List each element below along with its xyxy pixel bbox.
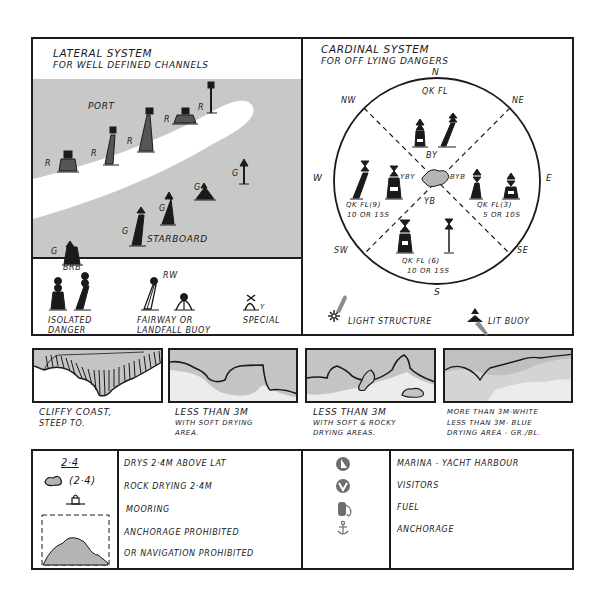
starboard-label: STARBOARD — [147, 234, 208, 244]
symbol-row-mooring: MOORING — [126, 505, 170, 514]
symbol-row-anchorage-prohibited: ANCHORAGE PROHIBITED — [124, 528, 239, 537]
starboard-marker-label: G — [51, 247, 58, 256]
port-marker-label: R — [164, 115, 170, 124]
mooring-icon — [66, 495, 85, 504]
fuel-icon — [338, 502, 351, 516]
cardinal-section: CARDINAL SYSTEM FOR OFF LYING DANGERS — [303, 39, 572, 334]
coast-3-line3: DRYING AREAS. — [313, 429, 376, 437]
symbols-right-icons — [303, 451, 389, 568]
starboard-marker-label: G — [232, 169, 239, 178]
marina-icon — [336, 457, 350, 471]
fairway-label-2: LANDFALL BUOY — [137, 326, 210, 335]
coastline-row: CLIFFY COAST, STEEP TO. LESS THAN 3M WIT… — [31, 347, 574, 442]
coast-2-line2: WITH SOFT DRYING — [175, 419, 253, 427]
lateral-title: LATERAL SYSTEM — [53, 47, 152, 59]
fairway-code: RW — [163, 271, 178, 280]
special-marks-section: BRB RW Y ISOLATED DANGER FAIRWAY OR LAND… — [33, 259, 301, 334]
rock-value: (2·4) — [69, 475, 96, 486]
coast-cliffy-panel — [32, 348, 163, 403]
starboard-marker-label: G — [159, 204, 166, 213]
coast-soft-rocky-panel — [305, 348, 436, 403]
symbols-left-descriptions: DRYS 2·4M ABOVE LAT ROCK DRYING 2·4M MOO… — [124, 451, 300, 568]
coast-2-line3: AREA. — [175, 429, 199, 437]
table-divider-1 — [117, 449, 119, 570]
coast-4-line3: DRYING AREA - GR./BL. — [447, 429, 541, 437]
port-label: PORT — [88, 101, 115, 111]
anchor-icon — [338, 521, 348, 534]
coast-3-line2: WITH SOFT & ROCKY — [313, 419, 396, 427]
coast-depth-colors-panel — [443, 348, 573, 403]
isolated-danger-label: ISOLATED — [48, 316, 92, 325]
symbols-left-column: 2·4 (2·4) — [33, 451, 117, 568]
special-label: SPECIAL — [243, 316, 280, 325]
coast-soft-drying-panel — [168, 348, 298, 403]
light-structure-label: LIGHT STRUCTURE — [348, 317, 432, 326]
prohibited-area-icon — [43, 538, 108, 565]
symbol-row-marina: MARINA - YACHT HARBOUR — [397, 459, 519, 468]
port-marker-label: R — [45, 159, 51, 168]
visitors-icon — [336, 479, 350, 493]
symbols-right-descriptions: MARINA - YACHT HARBOUR VISITORS FUEL ANC… — [397, 451, 572, 568]
lateral-subtitle: FOR WELL DEFINED CHANNELS — [53, 60, 209, 70]
starboard-marker-label: G — [122, 227, 129, 236]
symbol-row-visitors: VISITORS — [397, 481, 439, 490]
rock-icon — [33, 451, 117, 568]
symbol-row-fuel: FUEL — [397, 503, 419, 512]
lit-buoy-label: LIT BUOY — [488, 317, 530, 326]
coast-2-line1: LESS THAN 3M — [175, 407, 248, 417]
port-marker-label: R — [127, 137, 133, 146]
isolated-danger-label-2: DANGER — [48, 326, 86, 335]
fairway-label: FAIRWAY OR — [137, 316, 193, 325]
coast-4-line1: MORE THAN 3M-WHITE — [447, 408, 539, 416]
starboard-marker-label: G — [194, 183, 201, 192]
light-legend-symbols — [303, 39, 572, 334]
symbol-row-navigation-prohibited: OR NAVIGATION PROHIBITED — [124, 549, 254, 558]
table-divider-3 — [389, 449, 391, 570]
symbol-row-dries: DRYS 2·4M ABOVE LAT — [124, 459, 226, 468]
special-code: Y — [260, 303, 265, 311]
port-marker-label: R — [91, 149, 97, 158]
coast-1-line1: CLIFFY COAST, — [39, 407, 112, 417]
coast-1-line2: STEEP TO. — [39, 419, 85, 428]
port-marker-label: R — [198, 103, 204, 112]
coast-3-line1: LESS THAN 3M — [313, 407, 386, 417]
isolated-danger-code: BRB — [63, 263, 81, 272]
symbol-row-anchorage: ANCHORAGE — [397, 525, 454, 534]
coast-4-line2: LESS THAN 3M- BLUE — [447, 419, 532, 427]
symbol-row-rock: ROCK DRYING 2·4M — [124, 482, 212, 491]
